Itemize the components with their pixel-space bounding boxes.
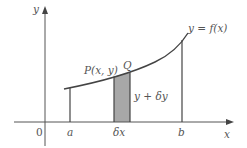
delta-x-label: δx xyxy=(113,126,125,138)
point-p-label: P(x, y) xyxy=(83,64,118,76)
origin-label: 0 xyxy=(36,126,43,138)
point-q-label: Q xyxy=(123,59,132,72)
strip-height-label: y + δy xyxy=(133,90,169,102)
a-label: a xyxy=(67,126,73,138)
x-axis-label: x xyxy=(224,128,230,140)
area-under-curve-diagram: y x 0 y = f(x) P(x, y) Q a b δx y + δy xyxy=(0,0,247,148)
y-axis-arrow-icon xyxy=(42,6,48,14)
y-axis-label: y xyxy=(32,3,40,15)
b-label: b xyxy=(178,126,185,138)
curve-label: y = f(x) xyxy=(187,22,227,34)
shaded-strip xyxy=(114,72,130,122)
x-axis-arrow-icon xyxy=(226,119,234,125)
